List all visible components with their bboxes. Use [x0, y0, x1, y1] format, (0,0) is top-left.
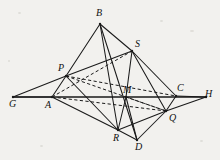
paper-speck [18, 12, 21, 14]
paper-speck [190, 30, 194, 32]
vertex-label-s: S [135, 39, 140, 49]
edge-R-Q [118, 111, 166, 130]
vertex-label-q: Q [169, 113, 176, 123]
edge-A-S-dashed [52, 51, 132, 97]
edge-P-S [66, 51, 132, 76]
vertex-point-c [175, 95, 177, 97]
edge-A-Q-dashed [52, 97, 166, 111]
figure-canvas [0, 0, 220, 160]
vertex-point-r [117, 129, 119, 131]
vertex-point-m [125, 96, 127, 98]
vertex-label-h: H [205, 89, 212, 99]
vertex-label-a: A [45, 100, 51, 110]
paper-speck [40, 145, 43, 147]
vertex-label-c: C [177, 83, 184, 93]
vertex-point-a [51, 96, 53, 98]
edge-B-P [66, 24, 100, 76]
edge-B-D [100, 24, 137, 140]
vertex-point-b [99, 23, 101, 25]
vertex-point-s [131, 50, 133, 52]
edge-P-Q-dashed [66, 76, 166, 111]
vertex-label-r: R [113, 133, 119, 143]
edge-A-R [52, 97, 118, 130]
edge-Q-H [166, 97, 206, 111]
vertex-point-q [165, 110, 167, 112]
vertex-label-b: B [96, 8, 102, 18]
vertex-label-d: D [135, 142, 142, 152]
paper-speck [8, 60, 10, 62]
vertex-label-g: G [9, 99, 16, 109]
edge-M-D [126, 97, 137, 140]
paper-speck [200, 140, 203, 142]
vertex-label-m: M [123, 85, 131, 95]
edge-M-R [118, 97, 126, 130]
edge-D-Q [137, 111, 166, 140]
paper-speck [160, 20, 163, 22]
geometry-figure: BSPCHGAMQRD [0, 0, 220, 160]
vertex-point-p [65, 75, 67, 77]
vertex-label-p: P [58, 63, 64, 73]
